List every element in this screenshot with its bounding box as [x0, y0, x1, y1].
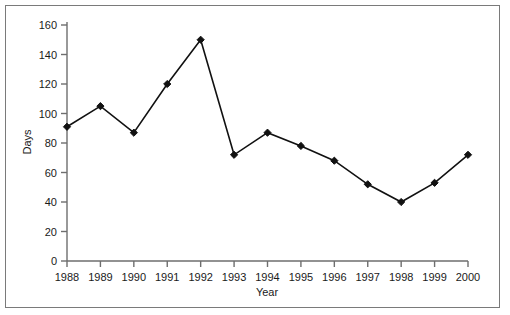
x-tick-label: 1997: [356, 271, 380, 283]
data-line: [67, 40, 468, 202]
y-tick-label: 60: [45, 167, 57, 179]
x-tick-label: 1994: [255, 271, 279, 283]
y-tick-label: 100: [39, 108, 57, 120]
figure: 020406080100120140160 198819891990199119…: [0, 0, 510, 315]
x-tick-label: 1991: [155, 271, 179, 283]
x-axis-ticks: [67, 261, 468, 267]
y-tick-label: 40: [45, 196, 57, 208]
x-tick-label: 1989: [88, 271, 112, 283]
x-tick-label: 1988: [55, 271, 79, 283]
y-tick-label: 140: [39, 49, 57, 61]
x-tick-label: 1993: [222, 271, 246, 283]
x-tick-label: 1996: [322, 271, 346, 283]
y-tick-label: 0: [51, 255, 57, 267]
data-markers: [63, 36, 471, 205]
x-tick-label: 1992: [188, 271, 212, 283]
line-chart: 020406080100120140160 198819891990199119…: [0, 0, 510, 315]
y-axis-title: Days: [21, 129, 33, 155]
x-axis-tick-labels: 1988198919901991199219931994199519961997…: [55, 271, 480, 283]
y-tick-label: 120: [39, 78, 57, 90]
x-tick-label: 1990: [122, 271, 146, 283]
data-point-marker: [297, 142, 304, 149]
x-axis-title: Year: [256, 286, 279, 298]
axes: [67, 22, 468, 261]
data-point-marker: [398, 198, 405, 205]
y-axis-tick-labels: 020406080100120140160: [39, 19, 57, 267]
y-tick-label: 160: [39, 19, 57, 31]
y-axis-ticks: [61, 25, 67, 261]
x-tick-label: 1998: [389, 271, 413, 283]
x-tick-label: 2000: [456, 271, 480, 283]
y-tick-label: 80: [45, 137, 57, 149]
y-tick-label: 20: [45, 226, 57, 238]
data-point-marker: [63, 123, 70, 130]
x-tick-label: 1999: [422, 271, 446, 283]
x-tick-label: 1995: [289, 271, 313, 283]
